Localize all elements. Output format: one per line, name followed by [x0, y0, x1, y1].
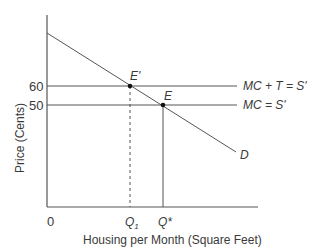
- origin-label: 0: [47, 214, 54, 229]
- mc-line-label: MC = S': [243, 98, 286, 112]
- e-label: E: [164, 89, 173, 103]
- x-axis-label: Housing per Month (Square Feet): [83, 233, 262, 247]
- qstar-label: Q*: [158, 215, 172, 229]
- demand-label: D: [240, 148, 249, 162]
- y-tick-60: 60: [29, 79, 43, 94]
- point-e-prime: [128, 84, 133, 89]
- tax-line-label: MC + T = S': [243, 79, 307, 93]
- point-e: [161, 103, 166, 108]
- chart: E' E MC + T = S' MC = S' D 60 50 0 Q1 Q*…: [0, 0, 318, 252]
- q1-label: Q1: [125, 215, 139, 231]
- y-tick-50: 50: [29, 98, 43, 113]
- demand-line: [47, 33, 236, 152]
- y-axis-label: Price (Cents): [13, 103, 27, 173]
- e-prime-label: E': [130, 69, 141, 83]
